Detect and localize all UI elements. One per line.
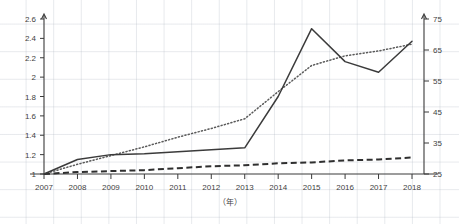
x-axis-tick-label: 2014 xyxy=(269,183,287,192)
x-axis-ticks: 2007200820092010201120122013201420152016… xyxy=(35,174,421,192)
x-axis-unit-label: （年） xyxy=(218,197,242,207)
y-axis-left-tick-label: 1.2 xyxy=(25,151,37,160)
x-axis-tick-label: 2015 xyxy=(303,183,321,192)
chart-container: 11.21.41.61.822.22.42.6 253545556575 200… xyxy=(0,0,459,224)
x-axis-tick-label: 2018 xyxy=(403,183,421,192)
x-axis-tick-label: 2012 xyxy=(202,183,220,192)
line-chart-plot: 11.21.41.61.822.22.42.6 253545556575 200… xyxy=(0,0,459,224)
y-axis-right-tick-label: 65 xyxy=(433,46,442,55)
x-axis-tick-label: 2013 xyxy=(236,183,254,192)
y-axis-left-tick-label: 1.4 xyxy=(25,131,37,140)
y-axis-left-ticks: 11.21.41.61.822.22.42.6 xyxy=(25,15,44,179)
y-axis-left-tick-label: 1.6 xyxy=(25,112,37,121)
y-axis-left-tick-label: 2.6 xyxy=(25,15,37,24)
series-line-solid xyxy=(44,29,412,174)
y-axis-right-tick-label: 55 xyxy=(433,77,442,86)
y-axis-right-ticks: 253545556575 xyxy=(424,15,442,179)
x-axis-tick-label: 2016 xyxy=(336,183,354,192)
x-axis-tick-label: 2009 xyxy=(102,183,120,192)
series-line-dotted xyxy=(44,44,412,174)
y-axis-left-tick-label: 2.4 xyxy=(25,34,37,43)
x-axis-tick-label: 2008 xyxy=(69,183,87,192)
y-axis-right-tick-label: 75 xyxy=(433,15,442,24)
x-axis-tick-label: 2011 xyxy=(169,183,187,192)
series-line-dashed xyxy=(44,158,412,174)
x-axis-tick-label: 2007 xyxy=(35,183,53,192)
x-axis-tick-label: 2010 xyxy=(135,183,153,192)
x-axis-tick-label: 2017 xyxy=(370,183,388,192)
y-axis-left-tick-label: 1.8 xyxy=(25,93,37,102)
y-axis-left-tick-label: 2 xyxy=(32,73,37,82)
y-axis-right-tick-label: 35 xyxy=(433,139,442,148)
y-axis-right-tick-label: 45 xyxy=(433,108,442,117)
y-axis-left-tick-label: 2.2 xyxy=(25,54,37,63)
